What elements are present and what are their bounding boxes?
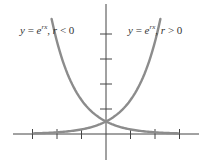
label-r-positive: y = erx, r > 0 [128, 24, 182, 36]
label-r-negative: y = erx, r < 0 [20, 24, 74, 36]
label-eq: = [133, 24, 145, 36]
label-cond: < 0 [57, 24, 74, 36]
label-eq: = [25, 24, 37, 36]
label-cond: > 0 [165, 24, 182, 36]
